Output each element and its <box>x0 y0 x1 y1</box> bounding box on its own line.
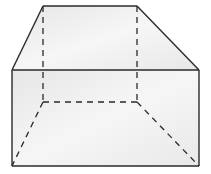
top-face <box>12 6 199 70</box>
front-face <box>12 70 199 166</box>
prism-diagram <box>0 0 211 174</box>
